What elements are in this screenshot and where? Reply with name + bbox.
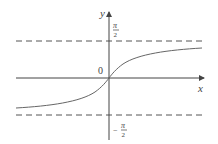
x-axis-label: x (197, 82, 203, 94)
upper-pi-denominator: 2 (114, 31, 118, 39)
lower-pi-denominator: 2 (122, 131, 126, 139)
y-axis-label: y (99, 7, 105, 19)
origin-label: 0 (98, 65, 103, 76)
lower-pi-numerator: π (121, 121, 126, 130)
lower-minus-sign: − (113, 126, 118, 135)
upper-pi-numerator: π (113, 21, 118, 30)
arctan-graph: y x 0 π 2 − π 2 (0, 0, 218, 144)
